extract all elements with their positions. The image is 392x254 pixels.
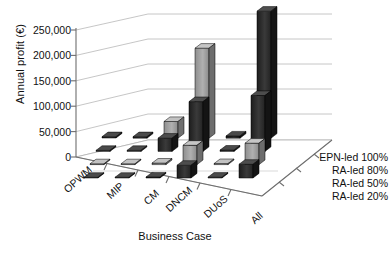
legend-item-ra-led-20: RA-led 20% — [332, 190, 388, 202]
bar-epn-duos — [226, 131, 246, 138]
chart-container: Annual profit (€) 250,000 200,000 150,00… — [0, 0, 392, 254]
y-axis-line — [71, 28, 76, 157]
bar-epn-opwm — [102, 132, 122, 138]
bar-ra20-all — [239, 160, 259, 178]
legend-item-ra-led-50: RA-led 50% — [332, 177, 388, 189]
chart-plot-area — [0, 0, 392, 254]
bar-ra20-dncm — [177, 161, 197, 178]
legend-item-epn-led-100: EPN-led 100% — [319, 151, 388, 163]
legend-item-ra-led-80: RA-led 80% — [332, 164, 388, 176]
bar-ra80-cm — [158, 134, 178, 152]
bar-ra20-cm — [146, 172, 166, 178]
x-axis-title: Business Case — [95, 230, 255, 242]
bar-epn-mip — [133, 132, 153, 138]
bar-ra20-mip — [115, 173, 135, 178]
